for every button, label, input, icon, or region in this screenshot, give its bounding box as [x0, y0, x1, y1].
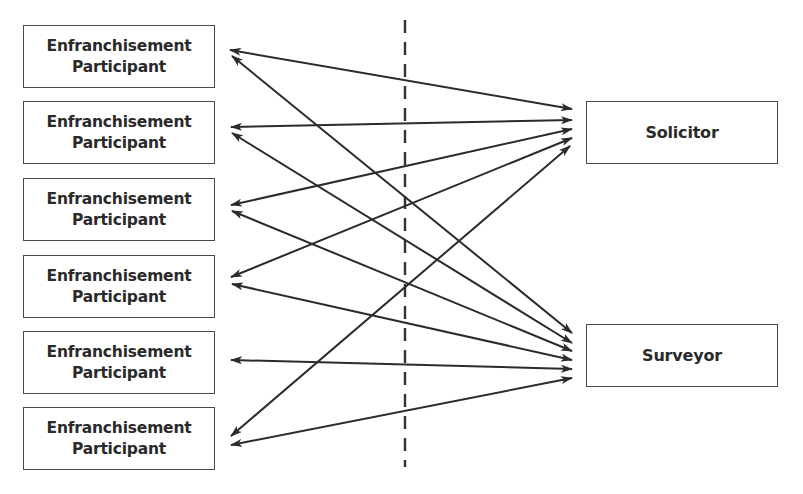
participant-label-line2: Participant — [72, 439, 166, 460]
participant-label-line2: Participant — [72, 133, 166, 154]
arrow-p2-solicitor — [231, 120, 572, 127]
solicitor-label: Solicitor — [645, 122, 718, 143]
participant-label-line2: Participant — [72, 287, 166, 308]
arrow-p3-solicitor — [231, 129, 572, 205]
surveyor-label: Surveyor — [642, 345, 722, 366]
solicitor-box: Solicitor — [586, 101, 778, 164]
participant-label-line1: Enfranchisement — [47, 342, 192, 363]
arrow-p1-solicitor — [230, 50, 572, 109]
participant-box-3: Enfranchisement Participant — [23, 178, 215, 241]
arrow-p1-surveyor — [232, 56, 572, 333]
arrow-p6-solicitor — [231, 146, 570, 436]
participant-label-line1: Enfranchisement — [47, 266, 192, 287]
participant-label-line2: Participant — [72, 363, 166, 384]
participant-box-5: Enfranchisement Participant — [23, 331, 215, 394]
participant-label-line2: Participant — [72, 210, 166, 231]
arrow-p5-surveyor — [231, 360, 572, 369]
participant-box-2: Enfranchisement Participant — [23, 101, 215, 164]
surveyor-box: Surveyor — [586, 324, 778, 387]
participant-label-line1: Enfranchisement — [47, 418, 192, 439]
arrow-p4-solicitor — [231, 138, 572, 277]
arrow-p6-surveyor — [231, 378, 572, 445]
participant-label-line2: Participant — [72, 57, 166, 78]
arrow-p3-surveyor — [232, 211, 572, 351]
participant-label-line1: Enfranchisement — [47, 112, 192, 133]
participant-box-6: Enfranchisement Participant — [23, 407, 215, 470]
participant-box-4: Enfranchisement Participant — [23, 255, 215, 318]
participant-box-1: Enfranchisement Participant — [23, 25, 215, 88]
participant-label-line1: Enfranchisement — [47, 189, 192, 210]
arrow-p2-surveyor — [232, 133, 572, 343]
participant-label-line1: Enfranchisement — [47, 36, 192, 57]
arrow-p4-surveyor — [232, 284, 572, 360]
